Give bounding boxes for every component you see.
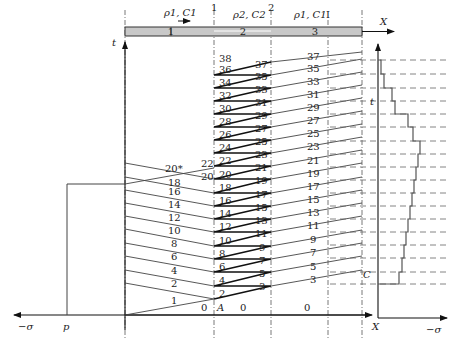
- interface1-label-20: 20: [201, 171, 214, 182]
- svg-text:26: 26: [219, 129, 232, 140]
- svg-text:7: 7: [259, 255, 265, 266]
- svg-text:11: 11: [255, 228, 268, 239]
- svg-text:10: 10: [168, 225, 181, 236]
- svg-text:6: 6: [219, 261, 225, 272]
- svg-text:2: 2: [171, 278, 177, 289]
- svg-text:1: 1: [171, 295, 177, 306]
- svg-text:13: 13: [307, 207, 320, 218]
- svg-text:37: 37: [255, 59, 268, 70]
- bar-seg2-label: 2: [240, 26, 246, 37]
- stress-history-profile: [378, 60, 420, 284]
- region1-label: ρ1, C1: [163, 7, 197, 18]
- svg-text:25: 25: [307, 128, 320, 139]
- svg-text:29: 29: [255, 110, 268, 121]
- right-region-labels: 3 5 7 9 11 13 15 17 19 21 23 25 27 29 31…: [307, 51, 320, 285]
- t-axis-left-label: t: [112, 37, 117, 48]
- svg-text:12: 12: [168, 212, 181, 223]
- svg-text:38: 38: [219, 53, 232, 64]
- svg-text:5: 5: [310, 261, 316, 272]
- svg-text:20: 20: [219, 169, 232, 180]
- svg-text:5: 5: [259, 268, 265, 279]
- p-label: p: [63, 321, 70, 332]
- neg-sigma-left-label: −σ: [18, 321, 34, 332]
- svg-text:35: 35: [255, 71, 268, 82]
- point-a-label: A: [216, 302, 224, 313]
- t-axis-right-label: t: [370, 96, 375, 107]
- svg-text:28: 28: [219, 116, 232, 127]
- svg-text:6: 6: [171, 251, 177, 262]
- svg-text:29: 29: [307, 102, 320, 113]
- svg-text:32: 32: [219, 90, 232, 101]
- svg-text:9: 9: [259, 242, 265, 253]
- svg-text:37: 37: [307, 51, 320, 62]
- svg-text:21: 21: [255, 162, 268, 173]
- svg-text:33: 33: [255, 84, 268, 95]
- zero-label-2: 0: [240, 302, 246, 313]
- svg-text:31: 31: [307, 89, 320, 100]
- svg-text:27: 27: [307, 115, 320, 126]
- svg-text:14: 14: [219, 208, 232, 219]
- layer-left-labels: 2 4 6 8 10 12 14 16 18 20 22 24 26 28 30…: [219, 53, 232, 299]
- region2-label: ρ2, C2: [232, 9, 266, 20]
- zero-label-1: 0: [201, 302, 207, 313]
- svg-text:36: 36: [219, 64, 232, 75]
- svg-text:24: 24: [219, 142, 232, 153]
- load-profile: [67, 184, 125, 315]
- svg-text:21: 21: [307, 155, 320, 166]
- section-lines: [125, 10, 362, 338]
- svg-text:23: 23: [307, 141, 320, 152]
- svg-text:16: 16: [219, 195, 232, 206]
- svg-text:20*: 20*: [165, 163, 183, 174]
- svg-text:13: 13: [255, 215, 268, 226]
- layer-right-labels: 3 5 7 9 11 13 15 17 19 21 23 25 27 29 31…: [255, 59, 268, 292]
- svg-text:8: 8: [219, 248, 225, 259]
- svg-text:3: 3: [259, 281, 265, 292]
- svg-text:25: 25: [255, 136, 268, 147]
- bar-seg3-label: 3: [312, 26, 318, 37]
- svg-text:19: 19: [307, 168, 320, 179]
- svg-text:15: 15: [307, 194, 320, 205]
- svg-text:3: 3: [310, 274, 316, 285]
- svg-text:4: 4: [219, 275, 225, 286]
- svg-text:22: 22: [219, 155, 232, 166]
- svg-text:34: 34: [219, 77, 232, 88]
- svg-text:23: 23: [255, 149, 268, 160]
- svg-text:17: 17: [307, 181, 320, 192]
- svg-text:18: 18: [168, 177, 181, 188]
- svg-text:18: 18: [219, 182, 232, 193]
- svg-text:8: 8: [171, 238, 177, 249]
- svg-text:17: 17: [255, 189, 268, 200]
- interface1-label: 1: [211, 2, 217, 13]
- wave-propagation-diagram: 1 2 3 ρ1, C1 ρ2, C2 ρ1, C1 1 2 I X t −σ …: [0, 0, 452, 340]
- section-i-label: I: [326, 9, 330, 20]
- rod-bar: [125, 27, 394, 36]
- svg-text:19: 19: [255, 175, 268, 186]
- svg-text:14: 14: [168, 199, 181, 210]
- interface1-label-22: 22: [201, 158, 214, 169]
- svg-text:2: 2: [219, 288, 225, 299]
- time-level-dashes: [330, 60, 450, 284]
- x-bottom-label: X: [371, 321, 380, 332]
- svg-text:12: 12: [219, 221, 232, 232]
- svg-text:11: 11: [307, 220, 320, 231]
- svg-text:31: 31: [255, 97, 268, 108]
- svg-text:7: 7: [310, 247, 316, 258]
- svg-text:4: 4: [171, 265, 177, 276]
- point-c-label: C: [363, 269, 371, 280]
- svg-text:15: 15: [255, 202, 268, 213]
- svg-text:33: 33: [307, 76, 320, 87]
- svg-text:35: 35: [307, 63, 320, 74]
- svg-text:27: 27: [255, 123, 268, 134]
- region3-label: ρ1, C1: [293, 9, 327, 20]
- bar-seg1-label: 1: [168, 26, 174, 37]
- zero-label-3: 0: [304, 302, 310, 313]
- neg-sigma-right-label: −σ: [426, 324, 442, 335]
- left-region-labels: 1 2 4 6 8 10 12 14 16 18 20*: [165, 163, 183, 306]
- interface2-label: 2: [268, 2, 274, 13]
- svg-text:9: 9: [310, 234, 316, 245]
- svg-text:30: 30: [219, 103, 232, 114]
- svg-text:10: 10: [219, 235, 232, 246]
- x-top-label: X: [379, 16, 388, 27]
